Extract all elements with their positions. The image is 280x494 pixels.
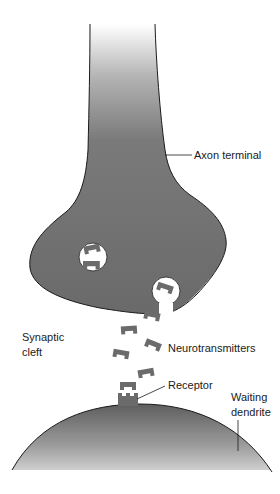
label-synaptic-cleft-line2: cleft — [22, 346, 42, 358]
neurotransmitter — [144, 338, 162, 351]
neurotransmitter — [137, 368, 154, 379]
neurotransmitter — [112, 349, 129, 360]
label-waiting-dendrite-line2: dendrite — [231, 406, 271, 418]
label-waiting-dendrite-line1: Waiting — [231, 391, 267, 403]
label-synaptic-cleft-line1: Synaptic — [22, 331, 65, 343]
axon-terminal — [30, 24, 226, 314]
receptor-leader — [137, 386, 165, 399]
vesicle — [79, 243, 107, 271]
neurotransmitter — [121, 325, 138, 334]
receptor — [118, 393, 138, 406]
label-axon-terminal: Axon terminal — [194, 149, 261, 161]
synapse-diagram: Axon terminal Synaptic cleft Neurotransm… — [0, 0, 280, 494]
label-receptor: Receptor — [168, 379, 213, 391]
neurotransmitter — [120, 382, 136, 390]
label-neurotransmitters: Neurotransmitters — [168, 342, 256, 354]
